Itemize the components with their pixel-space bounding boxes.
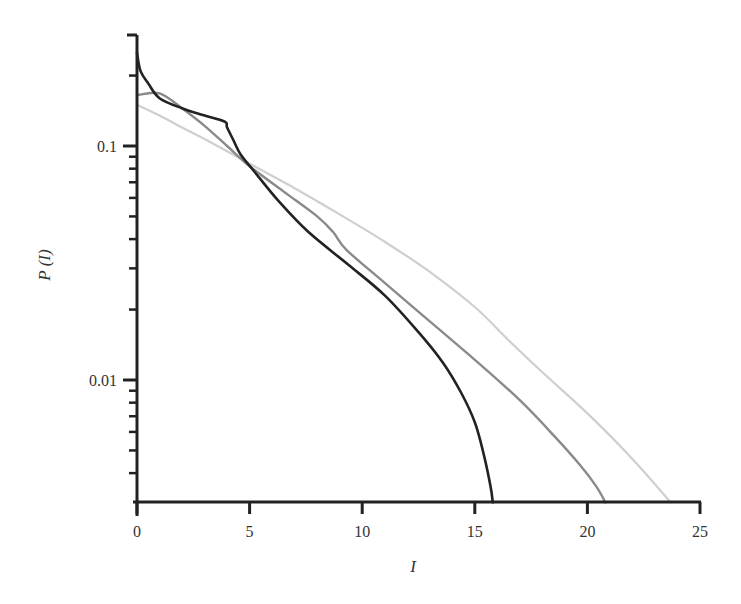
x-tick-label: 15 [467, 523, 483, 540]
x-tick-label: 25 [692, 523, 708, 540]
x-ticks: 0510152025 [133, 502, 708, 540]
chart: 0510152025 0.010.1 I P (I) [0, 0, 741, 604]
axes: 0510152025 0.010.1 [89, 35, 708, 540]
x-tick-label: 5 [246, 523, 254, 540]
y-ticks: 0.010.1 [89, 35, 137, 473]
series-lines [137, 53, 671, 503]
series-line-mid-gray [137, 93, 605, 503]
y-tick-label: 0.1 [97, 138, 117, 155]
series-line-light-gray [137, 105, 671, 503]
x-tick-label: 10 [354, 523, 370, 540]
x-axis-label: I [409, 557, 417, 576]
y-axis-label: P (I) [35, 249, 54, 282]
y-tick-label: 0.01 [89, 372, 117, 389]
x-tick-label: 20 [579, 523, 595, 540]
x-tick-label: 0 [133, 523, 141, 540]
